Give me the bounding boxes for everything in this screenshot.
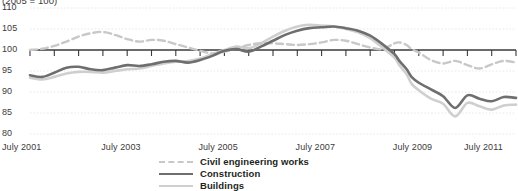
y-tick-label: 85 [2,107,24,117]
legend-swatch-civil-icon [159,161,193,163]
legend-label: Civil engineering works [200,156,309,167]
legend-swatch-buildings-icon [159,185,193,187]
y-tick-label: 110 [2,2,24,12]
legend-item-construction: Construction [159,168,359,179]
y-tick-label: 105 [2,23,24,33]
series-line-construction [30,26,516,107]
chart-legend: Civil engineering works Construction Bui… [0,156,518,191]
x-tick-label: July 2005 [198,142,237,152]
legend-label: Buildings [200,180,244,191]
series-lines [30,25,516,117]
x-tick-label: July 2007 [296,142,335,152]
x-tick-label: July 2003 [101,142,140,152]
line-chart: (2005 = 100) 80859095100105110 July 2001… [0,0,518,191]
x-tick-label: July 2009 [393,142,432,152]
legend-label: Construction [200,168,260,179]
legend-item-buildings: Buildings [159,180,359,191]
legend-item-civil-engineering-works: Civil engineering works [159,156,359,167]
y-tick-label: 95 [2,65,24,75]
y-tick-label: 100 [2,44,24,54]
x-tick-label: July 2011 [464,142,503,152]
legend-swatch-construction-icon [159,173,193,175]
x-tick-label: July 2001 [2,142,41,152]
y-tick-label: 80 [2,128,24,138]
x-axis-ticks [30,50,516,56]
y-tick-label: 90 [2,86,24,96]
